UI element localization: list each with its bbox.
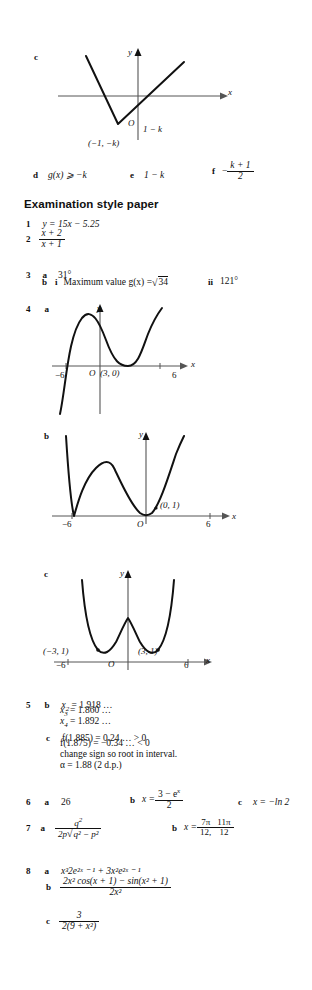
question-3-b-ii: ii 121° — [208, 276, 238, 287]
graph-4c-x-label: x — [206, 655, 210, 665]
graph-4b-tick-left: −6 — [62, 519, 72, 529]
question-5-c-line-3: change sign so root in interval. — [60, 749, 177, 760]
question-6-a: 6 a 26 — [26, 791, 71, 809]
graph-c-x-label: x — [228, 87, 232, 97]
question-7-b-fraction-2: 11π 12 — [214, 818, 233, 838]
sqrt-icon: √ — [67, 828, 73, 839]
question-6-c: c x = −ln 2 — [238, 791, 289, 809]
question-8-c-fraction: 3 2(9 + x²) — [59, 911, 99, 932]
question-8-c: c 3 2(9 + x²) — [46, 911, 99, 932]
graph-4c-min-left-label: (−3, 1) — [43, 646, 69, 656]
graph-4b-point-label: (0, 1) — [160, 500, 180, 510]
graph-4b-y-label: y — [139, 429, 143, 439]
graph-4b-x-label: x — [232, 511, 236, 521]
graph-4c-tick-left: −6 — [56, 660, 66, 670]
graph-4b-origin-label: O — [137, 519, 144, 529]
question-7-a: 7 a q2 2p√q² − p² — [26, 817, 101, 840]
graph-c-y-label: y — [128, 47, 132, 57]
question-5-c-line-4: α = 1.88 (2 d.p.) — [60, 760, 122, 771]
answer-f: f − k + 1 2 — [212, 161, 254, 182]
answers-page: c y x O 1 − k (−1, −k) d g(x) ⩾ −k e 1 −… — [0, 0, 312, 990]
question-7-b: b x = 7π 12, 11π 12 — [172, 818, 234, 838]
question-6-b-fraction: 3 − ex 2 — [155, 788, 183, 811]
question-7-a-fraction: q2 2p√q² − p² — [55, 817, 101, 840]
graph-c-origin-label: O — [128, 118, 135, 128]
graph-4c-y-label: y — [120, 568, 124, 578]
question-2-fraction: x + 2 x + 1 — [39, 229, 65, 250]
question-2: 2 x + 2 x + 1 — [26, 229, 65, 250]
graph-4a-y-label: y — [97, 303, 101, 313]
answer-e: e 1 − k — [130, 164, 164, 182]
graph-c-intercept-label: 1 − k — [143, 124, 162, 134]
graph-c — [48, 44, 238, 154]
question-7-b-fraction-1: 7π 12, — [197, 818, 214, 838]
graph-4a-x-label: x — [191, 359, 195, 369]
graph-4a-tick-left: −6 — [55, 370, 65, 380]
question-5-c-line-2: f(1.875) = −0.34 … < 0 — [60, 738, 150, 749]
answer-f-fraction: k + 1 2 — [227, 161, 253, 182]
graph-4c-tick-right: 6 — [184, 660, 189, 670]
graph-c-part-label: c — [34, 46, 38, 64]
graph-c-vertex-label: (−1, −k) — [88, 138, 119, 148]
graph-4a-origin-label: O — [89, 368, 96, 378]
question-4-c-label: c — [44, 563, 48, 581]
graph-4c-origin-label: O — [108, 659, 115, 669]
question-8-b: b 2x² cos(x + 1) − sin(x² + 1) 2x² — [46, 877, 171, 898]
graph-4b — [44, 428, 244, 528]
graph-4a-tick-right: 6 — [172, 370, 177, 380]
question-6-b: b x = 3 − ex 2 — [130, 788, 183, 811]
answer-d: d g(x) ⩾ −k — [33, 164, 87, 182]
question-3-b: b i Maximum value g(x) = √34 — [42, 276, 168, 288]
graph-4c-min-right-label: (3, 1) — [138, 646, 158, 656]
graph-4a — [44, 300, 224, 415]
question-8-b-fraction: 2x² cos(x + 1) − sin(x² + 1) 2x² — [60, 877, 171, 898]
graph-4a-point-label: (3, 0) — [100, 368, 120, 378]
graph-4b-tick-right: 6 — [206, 519, 211, 529]
exam-heading: Examination style paper — [24, 198, 159, 210]
